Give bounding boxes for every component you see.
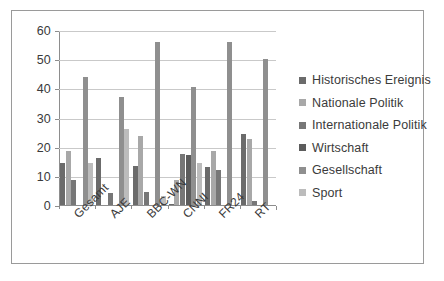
legend-label: Gesellschaft [312,163,382,177]
bar [124,129,129,205]
legend-swatch-icon [299,189,306,196]
y-tick-label: 50 [37,53,51,67]
chart-legend: Historisches EreignisNationale PolitikIn… [299,69,444,204]
x-tick-mark [276,206,277,210]
legend-swatch-icon [299,144,306,151]
legend-item[interactable]: Historisches Ereignis [299,69,444,92]
y-tick-label: 60 [37,24,51,38]
legend-item[interactable]: Sport [299,182,444,205]
bar-group [131,31,167,205]
bar [144,192,149,205]
y-tick-label: 0 [44,199,51,213]
legend-label: Nationale Politik [312,96,403,110]
bar-group [168,31,204,205]
bar [60,163,65,205]
legend-label: Historisches Ereignis [312,73,431,87]
legend-item[interactable]: Gesellschaft [299,159,444,182]
bar-group [240,31,276,205]
y-tick-label: 10 [37,170,51,184]
chart-frame: 0102030405060 GesamtAJEBBC-WNCNNIFR24RT … [11,10,424,264]
y-tick-label: 30 [37,111,51,125]
bar [227,42,232,205]
legend-swatch-icon [299,99,306,106]
legend-item[interactable]: Wirtschaft [299,137,444,160]
bar-group [59,31,95,205]
legend-swatch-icon [299,167,306,174]
bar [155,42,160,205]
bar [108,193,113,205]
bar [83,77,88,205]
bar-group [204,31,240,205]
plot-area: 0102030405060 [59,31,276,206]
legend-label: Sport [312,186,342,200]
chart-root: 0102030405060 GesamtAJEBBC-WNCNNIFR24RT … [0,0,444,281]
x-tick-mark [59,205,60,209]
legend-swatch-icon [299,122,306,129]
bar [191,87,196,205]
y-tick-label: 20 [37,140,51,154]
bar [247,139,252,205]
bar [138,136,143,205]
legend-item[interactable]: Nationale Politik [299,92,444,115]
bar [71,180,76,205]
bar [133,166,138,205]
bar [263,59,268,205]
legend-item[interactable]: Internationale Politik [299,114,444,137]
legend-label: Wirtschaft [312,141,369,155]
bar [119,97,124,205]
bar [66,151,71,205]
bar [186,155,191,205]
bar [211,151,216,205]
bar [216,170,221,205]
bar [252,201,257,205]
y-tick-label: 40 [37,82,51,96]
legend-swatch-icon [299,77,306,84]
legend-label: Internationale Politik [312,118,427,132]
bar-group [95,31,131,205]
